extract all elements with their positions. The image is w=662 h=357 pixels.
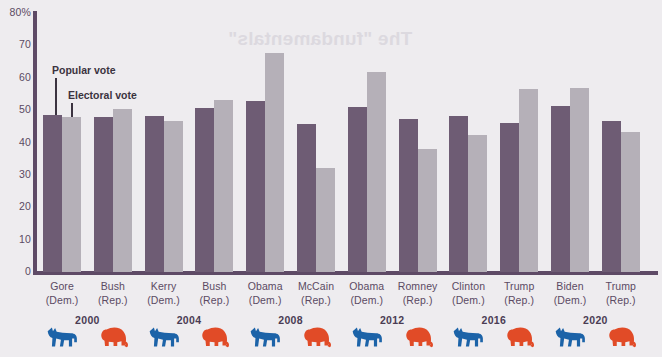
candidate-name: Trump [504,280,534,292]
candidate-party: (Dem.) [135,293,193,307]
bar-popular-vote [500,123,519,272]
candidate-name: Bush [202,280,226,292]
bar-popular-vote [602,121,621,273]
candidate-name: Clinton [452,280,485,292]
candidate-name: Romney [398,280,438,292]
legend-leader-line-popular [55,78,57,115]
bar-electoral-vote [316,168,335,272]
x-axis-candidate-label: Trump(Rep.) [490,279,548,307]
bar-popular-vote [449,116,468,272]
candidate-name: Bush [101,280,125,292]
bar-popular-vote [348,107,367,272]
candidate-name: Obama [349,280,384,292]
candidate-name: Kerry [151,280,177,292]
bar-electoral-vote [519,89,538,272]
democrat-donkey-icon [248,324,282,350]
republican-elephant-icon [401,324,435,350]
bar-electoral-vote [113,109,132,272]
x-axis-candidate-label: Bush(Rep.) [185,279,243,307]
republican-elephant-icon [299,324,333,350]
bar-electoral-vote [418,149,437,272]
bar-electoral-vote [570,88,589,272]
x-axis-candidate-label: Romney(Rep.) [389,279,447,307]
x-axis-candidate-label: Obama(Dem.) [236,279,294,307]
bar-popular-vote [94,117,113,272]
bar-electoral-vote [367,72,386,272]
x-axis-candidate-label: Kerry(Dem.) [135,279,193,307]
candidate-name: McCain [298,280,334,292]
bar-popular-vote [399,119,418,272]
bar-electoral-vote [164,121,183,272]
bar-popular-vote [43,115,62,272]
democrat-donkey-icon [553,324,587,350]
candidate-party: (Rep.) [389,293,447,307]
candidate-name: Biden [556,280,583,292]
x-axis-candidate-label: McCain(Rep.) [287,279,345,307]
x-axis-candidate-label: Trump(Rep.) [592,279,650,307]
candidate-name: Obama [248,280,283,292]
x-axis-candidate-label: Clinton(Dem.) [439,279,497,307]
candidate-party: (Dem.) [541,293,599,307]
candidate-party: (Dem.) [236,293,294,307]
democrat-donkey-icon [45,324,79,350]
candidate-party: (Rep.) [185,293,243,307]
candidate-name: Trump [606,280,636,292]
bar-popular-vote [246,101,265,272]
candidate-party: (Dem.) [338,293,396,307]
candidate-name: Gore [50,280,74,292]
republican-elephant-icon [96,324,130,350]
democrat-donkey-icon [451,324,485,350]
bar-popular-vote [551,106,570,272]
candidate-party: (Rep.) [84,293,142,307]
x-axis-candidate-label: Bush(Rep.) [84,279,142,307]
bar-popular-vote [195,108,214,272]
bar-electoral-vote [62,117,81,272]
candidate-party: (Dem.) [33,293,91,307]
bar-electoral-vote [621,132,640,272]
republican-elephant-icon [197,324,231,350]
democrat-donkey-icon [147,324,181,350]
republican-elephant-icon [502,324,536,350]
candidate-party: (Rep.) [592,293,650,307]
republican-elephant-icon [604,324,638,350]
legend-label-popular-vote: Popular vote [52,64,116,76]
x-axis-candidate-label: Obama(Dem.) [338,279,396,307]
bar-electoral-vote [468,135,487,272]
bar-popular-vote [145,116,164,272]
bar-electoral-vote [214,100,233,272]
bar-popular-vote [297,124,316,272]
candidate-party: (Rep.) [287,293,345,307]
legend-leader-line-electoral [71,103,73,117]
legend-label-electoral-vote: Electoral vote [68,89,137,101]
chart-container: The "fundamentals" 80%706050403020100 Po… [0,0,662,357]
bar-electoral-vote [265,53,284,273]
democrat-donkey-icon [350,324,384,350]
x-axis-candidate-label: Gore(Dem.) [33,279,91,307]
x-axis-candidate-label: Biden(Dem.) [541,279,599,307]
candidate-party: (Rep.) [490,293,548,307]
candidate-party: (Dem.) [439,293,497,307]
